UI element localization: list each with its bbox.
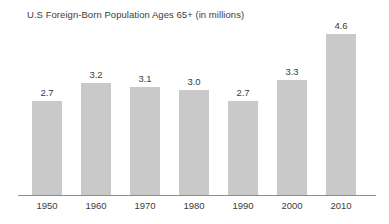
bar-value-label: 2.7 xyxy=(222,87,264,98)
x-axis-label: 2000 xyxy=(268,199,316,212)
x-axis-line xyxy=(18,195,376,196)
bar xyxy=(326,34,356,196)
bar-group: 3.0 xyxy=(179,1,209,196)
bar xyxy=(130,87,160,196)
bar-value-label: 2.7 xyxy=(26,87,68,98)
bar xyxy=(81,83,111,196)
bar-group: 4.6 xyxy=(326,1,356,196)
bar-group: 3.2 xyxy=(81,1,111,196)
x-axis-label: 1980 xyxy=(170,199,218,212)
x-axis-label: 1970 xyxy=(121,199,169,212)
x-axis-label: 2010 xyxy=(317,199,365,212)
bar xyxy=(179,90,209,196)
x-axis-label: 1950 xyxy=(23,199,71,212)
x-axis-label: 1990 xyxy=(219,199,267,212)
bar-group: 3.3 xyxy=(277,1,307,196)
bar-value-label: 3.2 xyxy=(75,69,117,80)
plot-area: 2.73.23.13.02.73.34.6 xyxy=(0,0,389,196)
bar-value-label: 3.3 xyxy=(271,66,313,77)
bar-value-label: 3.0 xyxy=(173,76,215,87)
bar xyxy=(228,101,258,196)
bar-chart: U.S Foreign-Born Population Ages 65+ (in… xyxy=(0,0,389,224)
bar-value-label: 3.1 xyxy=(124,73,166,84)
bar-group: 2.7 xyxy=(228,1,258,196)
bar xyxy=(277,80,307,196)
bar-value-label: 4.6 xyxy=(320,20,362,31)
bar-group: 2.7 xyxy=(32,1,62,196)
bar-group: 3.1 xyxy=(130,1,160,196)
x-axis-label: 1960 xyxy=(72,199,120,212)
bar xyxy=(32,101,62,196)
x-axis-tick-labels: 1950196019701980199020002010 xyxy=(0,199,389,215)
